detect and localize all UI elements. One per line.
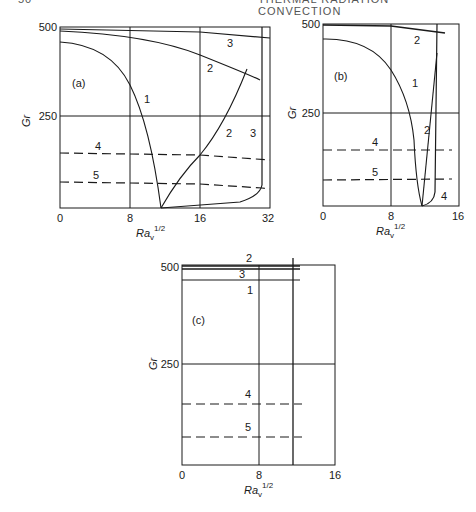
panel-a (60, 27, 270, 208)
xtick-32: 32 (262, 212, 274, 224)
panel-tag-b: (b) (334, 70, 347, 82)
xtick-16: 16 (329, 469, 341, 481)
xtick-0: 0 (320, 210, 326, 222)
curve-2-lower (161, 69, 247, 208)
panel-b (323, 24, 459, 206)
label-curve-5: 5 (245, 421, 251, 433)
label-curve-2-upper: 2 (207, 62, 213, 74)
y-axis-label: Gr (20, 114, 32, 128)
label-curve-4-solid: 4 (441, 190, 447, 202)
x-axis-label: Rav1/2 (136, 224, 166, 242)
xtick-16: 16 (194, 212, 206, 224)
xtick-0: 0 (179, 469, 185, 481)
ytick-500: 500 (39, 21, 57, 33)
label-curve-1: 1 (412, 77, 418, 89)
figure: 500 250 0 8 16 32 Gr Rav1/2 (a) 1 2 3 2 … (0, 0, 476, 512)
label-curve-5: 5 (372, 166, 378, 178)
label-curve-3-upper: 3 (227, 37, 233, 49)
y-axis-label: Gr (286, 106, 298, 120)
panel-b-labels: 500 250 0 8 16 Gr Rav1/2 (b) 1 2 2 4 5 4 (286, 18, 464, 240)
curve-1 (323, 39, 422, 206)
curve-5-dashed (323, 179, 452, 180)
label-curve-2-lower: 2 (424, 124, 430, 136)
ytick-500: 500 (302, 18, 320, 30)
curve-4-dashed (60, 153, 270, 160)
ytick-250: 250 (161, 358, 179, 370)
xtick-8: 8 (127, 212, 133, 224)
curve-5-dashed (60, 182, 270, 189)
xtick-8: 8 (388, 210, 394, 222)
x-axis-label: Rav1/2 (376, 222, 406, 240)
x-axis-label: Rav1/2 (244, 481, 274, 499)
label-curve-2-upper: 2 (414, 34, 420, 46)
label-curve-4-dashed: 4 (372, 136, 378, 148)
label-curve-2-lower: 2 (226, 127, 232, 139)
label-curve-3: 3 (239, 268, 245, 280)
panel-a-frame (60, 27, 270, 208)
label-curve-3-lower: 3 (250, 127, 256, 139)
xtick-0: 0 (57, 212, 63, 224)
ytick-250: 250 (302, 107, 320, 119)
label-curve-5: 5 (93, 169, 99, 181)
curve-3-lower (161, 27, 262, 208)
y-axis-label: Gr (147, 357, 159, 371)
panel-tag-a: (a) (72, 77, 85, 89)
panel-c (182, 258, 335, 465)
ytick-250: 250 (39, 110, 57, 122)
xtick-8: 8 (256, 469, 262, 481)
xtick-16: 16 (452, 210, 464, 222)
curve-2-upper (323, 25, 445, 33)
label-curve-1: 1 (247, 284, 253, 296)
panel-c-labels: 500 250 0 8 16 Gr Rav1/2 (c) 2 3 1 4 5 (147, 252, 341, 499)
label-curve-2: 2 (246, 252, 252, 264)
label-curve-4: 4 (95, 140, 101, 152)
label-curve-1: 1 (144, 93, 150, 105)
label-curve-4: 4 (245, 388, 251, 400)
ytick-500: 500 (161, 261, 179, 273)
panel-tag-c: (c) (192, 314, 205, 326)
